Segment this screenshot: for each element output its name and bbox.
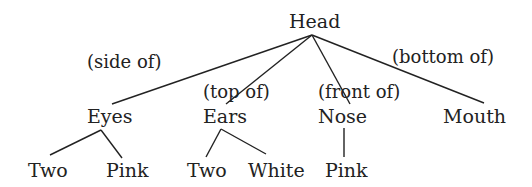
node-eyes: Eyes [87, 107, 133, 126]
edge-label-front-of: (front of) [318, 83, 400, 101]
node-mouth: Mouth [443, 107, 506, 126]
edge-label-top-of: (top of) [203, 83, 270, 101]
edge-label-side-of: (side of) [87, 53, 161, 71]
node-eyes-pink: Pink [106, 161, 149, 180]
node-eyes-two: Two [28, 161, 68, 180]
edge-eyes-pink [101, 130, 122, 158]
node-nose-pink: Pink [325, 161, 368, 180]
node-ears: Ears [203, 107, 247, 126]
node-ears-two: Two [187, 161, 227, 180]
node-nose: Nose [318, 107, 367, 126]
node-head: Head [289, 12, 340, 31]
tree-diagram: Head (side of) (top of) (front of) (bott… [0, 0, 532, 187]
edge-ears-two [206, 129, 221, 157]
edge-ears-white [221, 129, 266, 154]
node-ears-white: White [248, 161, 305, 180]
edge-label-bottom-of: (bottom of) [392, 48, 494, 66]
edge-eyes-two [50, 130, 101, 155]
